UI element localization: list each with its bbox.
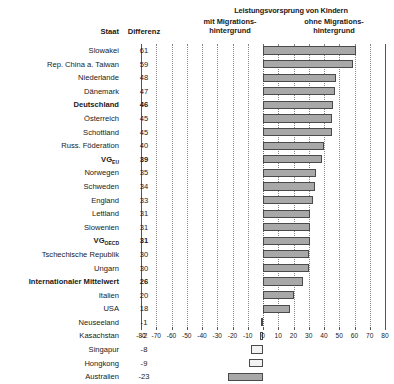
row-difference-value: 30: [122, 263, 166, 274]
row-difference-value: 47: [122, 86, 166, 97]
row-difference-value: 40: [122, 140, 166, 151]
bar: [263, 210, 310, 218]
row-country-label: Schottland: [4, 127, 119, 138]
table-row: Dänemark47: [0, 85, 386, 99]
row-difference-value: 33: [122, 195, 166, 206]
row-difference-value: 31: [122, 235, 166, 246]
table-row: Slowakei61: [0, 44, 386, 58]
row-country-label: Neuseeland: [4, 317, 119, 328]
table-row: Lettland31: [0, 207, 386, 221]
bar: [263, 60, 353, 68]
row-country-label: VGOECD: [4, 235, 119, 247]
row-country-label: Ungarn: [4, 263, 119, 274]
bar: [263, 305, 290, 313]
row-country-label: Deutschland: [4, 99, 119, 110]
table-row: Rep. China a. Taiwan59: [0, 58, 386, 72]
row-difference-value: 48: [122, 72, 166, 83]
row-country-label: Österreich: [4, 113, 119, 124]
row-difference-value: -9: [122, 358, 166, 369]
column-header-differenz: Differenz: [122, 27, 166, 36]
bar: [263, 223, 310, 231]
x-axis-labels: -80-70-60-50-40-30-20-100102030405060708…: [141, 330, 385, 344]
table-row: Ungarn30: [0, 262, 386, 276]
bar: [263, 114, 332, 122]
table-row: Neuseeland-1: [0, 316, 386, 330]
row-difference-value: -1: [122, 317, 166, 328]
row-country-label: Schweden: [4, 181, 119, 192]
row-difference-value: 61: [122, 45, 166, 56]
bar: [263, 101, 333, 109]
row-difference-value: 35: [122, 167, 166, 178]
bar: [263, 237, 310, 245]
table-row: VGEU39: [0, 153, 386, 167]
bar: [251, 345, 263, 353]
row-difference-value: 45: [122, 113, 166, 124]
bar: [263, 196, 313, 204]
row-difference-value: 45: [122, 127, 166, 138]
table-row: Österreich45: [0, 112, 386, 126]
row-country-label: Norwegen: [4, 167, 119, 178]
table-row: Tschechische Republik30: [0, 248, 386, 262]
legend-mit-line2: hintergrund: [186, 26, 274, 35]
row-country-label: Russ. Föderation: [4, 140, 119, 151]
bar: [228, 373, 263, 381]
row-country-label: Italien: [4, 290, 119, 301]
bar: [263, 128, 332, 136]
row-difference-value: 31: [122, 222, 166, 233]
row-country-label: Tschechische Republik: [4, 249, 119, 260]
row-country-label: Slowakei: [4, 45, 119, 56]
table-row: Niederlande48: [0, 71, 386, 85]
bar: [263, 250, 309, 258]
chart-title: Leistungsvorsprung von Kindern: [196, 6, 386, 15]
table-row: Schottland45: [0, 126, 386, 140]
bar: [261, 318, 263, 326]
legend-ohne-line1: ohne Migrations-: [304, 17, 364, 26]
bar: [263, 182, 315, 190]
table-row: USA18: [0, 302, 386, 316]
table-row: Hongkong-9: [0, 357, 386, 371]
row-difference-value: 18: [122, 303, 166, 314]
row-difference-value: 31: [122, 208, 166, 219]
table-row: Singapur-8: [0, 343, 386, 357]
row-country-label: Lettland: [4, 208, 119, 219]
table-row: Australien-23: [0, 370, 386, 384]
bar: [249, 359, 263, 367]
row-country-label: Singapur: [4, 344, 119, 355]
legend-mit-line1: mit Migrations-: [204, 17, 257, 26]
chart-header: Leistungsvorsprung von Kindern mit Migra…: [0, 0, 386, 44]
table-row: Deutschland46: [0, 98, 386, 112]
row-country-label: VGEU: [4, 154, 119, 166]
row-difference-value: 59: [122, 59, 166, 70]
bar: [263, 277, 303, 285]
row-country-label: Internationaler Mittelwert: [4, 276, 119, 287]
x-axis-tick-label: 80: [375, 332, 394, 339]
table-row: Italien20: [0, 289, 386, 303]
legend-group-mit-migrationshintergrund: mit Migrations- hintergrund: [186, 17, 274, 35]
row-country-subscript: OECD: [105, 240, 119, 246]
bar: [263, 74, 336, 82]
legend-ohne-line2: hintergrund: [288, 26, 380, 35]
bar: [263, 169, 316, 177]
row-difference-value: -8: [122, 344, 166, 355]
table-row: Norwegen35: [0, 166, 386, 180]
bar: [263, 155, 322, 163]
table-row: Schweden34: [0, 180, 386, 194]
row-difference-value: 34: [122, 181, 166, 192]
row-difference-value: 26: [122, 276, 166, 287]
bar: [263, 291, 294, 299]
table-row: England33: [0, 194, 386, 208]
row-country-label: England: [4, 195, 119, 206]
legend-group-ohne-migrationshintergrund: ohne Migrations- hintergrund: [288, 17, 380, 35]
bar: [263, 46, 356, 54]
row-country-label: Rep. China a. Taiwan: [4, 59, 119, 70]
row-country-label: Australien: [4, 371, 119, 382]
row-difference-value: -23: [122, 371, 166, 382]
row-difference-value: 39: [122, 154, 166, 165]
bar: [263, 264, 309, 272]
table-row: VGOECD31: [0, 234, 386, 248]
row-country-subscript: EU: [112, 159, 119, 165]
row-country-label: Niederlande: [4, 72, 119, 83]
column-header-staat: Staat: [46, 27, 119, 36]
row-difference-value: 30: [122, 249, 166, 260]
table-row: Russ. Föderation40: [0, 139, 386, 153]
